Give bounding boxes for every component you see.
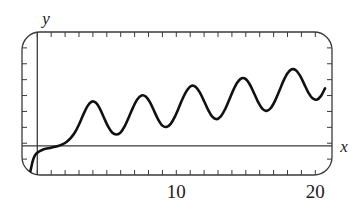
plot-svg: y x 1020 [0, 0, 360, 219]
x-tick-label: 20 [306, 181, 325, 202]
plot-curve [30, 69, 325, 174]
x-axis-label: x [339, 137, 348, 156]
x-tick-labels: 1020 [167, 181, 325, 202]
x-tick-label: 10 [167, 181, 186, 202]
y-axis-label: y [40, 9, 50, 28]
plot-frame [22, 32, 332, 175]
graph-figure: y x 1020 [0, 0, 360, 219]
tick-marks [22, 32, 332, 175]
